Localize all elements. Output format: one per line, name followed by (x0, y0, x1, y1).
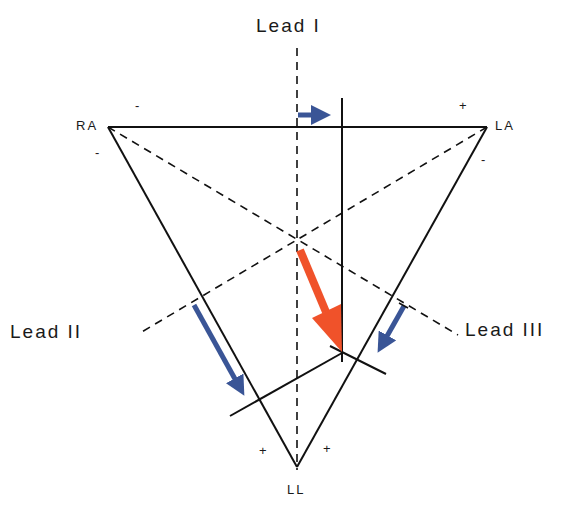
polarity-ll-right: + (323, 441, 331, 456)
mean-vector-arrow (300, 250, 342, 352)
polarity-la-top: + (459, 98, 467, 113)
lead2-projection-arrow (194, 305, 240, 388)
dashed-axes (108, 48, 487, 470)
projection-lines (230, 98, 386, 416)
electrode-ra-label: RA (76, 118, 98, 133)
polarity-ra-top: - (135, 98, 139, 113)
lead2-perpendicular (230, 353, 342, 416)
lead3-axis-dashed (108, 127, 458, 335)
polarity-la-side: - (481, 152, 485, 167)
lead2-label: Lead II (10, 321, 82, 343)
electrode-ll-label: LL (287, 482, 305, 497)
lead2-side (108, 127, 297, 467)
lead1-label: Lead I (256, 15, 321, 37)
polarity-ra-side: - (95, 145, 99, 160)
lead3-label: Lead III (465, 319, 544, 341)
lead2-axis-dashed (140, 127, 487, 333)
electrode-la-label: LA (495, 118, 515, 133)
polarity-ll-left: + (259, 443, 267, 458)
einthoven-triangle-diagram (0, 0, 577, 520)
lead3-side (297, 127, 487, 467)
lead3-projection-arrow (382, 306, 404, 345)
lead3-perpendicular (330, 346, 386, 374)
